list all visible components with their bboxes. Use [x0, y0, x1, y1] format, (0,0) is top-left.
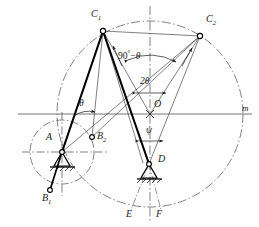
- label-point-B2: B2: [97, 131, 107, 144]
- angle-leader-to-C2: [182, 48, 192, 66]
- diagram-canvas: [0, 0, 259, 227]
- joint-B1: [48, 188, 53, 193]
- chord-C1-C2: [103, 31, 200, 36]
- ray-D-E: [131, 164, 149, 210]
- label-angle-90-minus-theta: 90°−θ: [118, 50, 140, 62]
- label-angle-theta: θ: [79, 99, 84, 109]
- label-point-O: O: [154, 99, 161, 109]
- line-C2-B2: [92, 36, 200, 137]
- joint-B2: [90, 135, 95, 140]
- joint-C1: [100, 28, 105, 33]
- joint-C2: [197, 33, 202, 38]
- label-angle-2theta: 2θ: [140, 77, 149, 87]
- label-point-B1: B1: [42, 193, 52, 206]
- ground-pivot-D: [137, 162, 162, 183]
- label-angle-psi: ψ: [146, 126, 152, 136]
- label-point-F: F: [156, 209, 162, 219]
- kinematic-diagram-figure: C1 C2 O A B1 B2 D E F θ 2θ ψ 90°−θ m: [0, 0, 259, 227]
- angle-arc-theta: [74, 111, 95, 116]
- label-point-C1: C1: [91, 9, 101, 22]
- label-axis-m: m: [242, 104, 249, 113]
- label-point-C2: C2: [206, 14, 216, 27]
- ray-D-F: [149, 164, 161, 210]
- label-point-E: E: [126, 209, 132, 219]
- label-point-A: A: [46, 132, 52, 142]
- label-point-D: D: [158, 154, 165, 164]
- ground-pivot-A: [50, 150, 75, 171]
